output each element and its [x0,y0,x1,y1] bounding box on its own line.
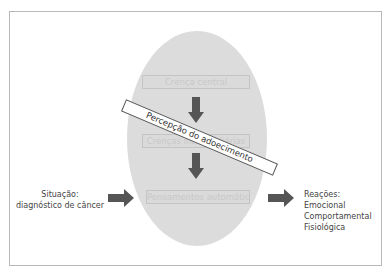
situation-text: Situação: diagnóstico de câncer [14,189,106,211]
situation-detail: diagnóstico de câncer [14,200,106,211]
arrow-right-icon [268,189,294,207]
reaction-item: Fisiológica [304,222,372,233]
reactions-text: Reações: Emocional Comportamental Fisiol… [304,189,372,233]
reaction-item: Emocional [304,200,372,211]
automatic-thoughts-label: Pensamentos automáticos [147,192,250,202]
core-belief-box: Crença central [142,75,250,89]
reactions-title: Reações: [304,189,372,200]
reaction-item: Comportamental [304,211,372,222]
automatic-thoughts-box: Pensamentos automáticos [146,190,250,204]
arrow-right-icon [108,189,134,207]
core-belief-label: Crença central [165,77,227,87]
arrow-down-icon [188,97,204,123]
arrow-down-icon [188,153,204,179]
situation-title: Situação: [14,189,106,200]
